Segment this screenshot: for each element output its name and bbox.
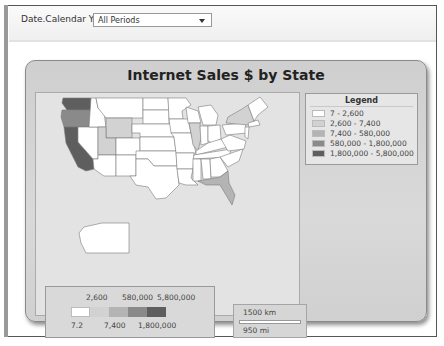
legend-item: 7 - 2,600 bbox=[306, 109, 417, 119]
filter-bar: Date.Calendar Year All Periods bbox=[9, 6, 436, 42]
legend-item: 2,600 - 7,400 bbox=[306, 119, 417, 129]
scale-top-label: 2,600 bbox=[86, 293, 107, 302]
distance-scale: 1500 km 950 mi bbox=[233, 304, 307, 338]
legend-label: 7,400 - 580,000 bbox=[330, 129, 390, 138]
legend-item: 7,400 - 580,000 bbox=[306, 129, 417, 139]
legend-item: 1,800,000 - 5,800,000 bbox=[306, 149, 417, 159]
state-washington bbox=[62, 98, 91, 110]
distance-km: 1500 km bbox=[243, 308, 276, 317]
dropdown-value: All Periods bbox=[98, 16, 140, 25]
scale-bar-line bbox=[239, 320, 301, 324]
map-panel: Internet Sales $ by State bbox=[25, 60, 427, 322]
us-map[interactable] bbox=[36, 93, 299, 315]
chevron-down-icon[interactable] bbox=[199, 19, 205, 23]
legend-label: 7 - 2,600 bbox=[330, 109, 364, 118]
calendar-year-dropdown[interactable]: All Periods bbox=[93, 13, 212, 27]
legend: Legend 7 - 2,600 2,600 - 7,400 7,400 - 5… bbox=[305, 93, 418, 165]
legend-swatch bbox=[312, 120, 325, 127]
color-scale: 2,600 580,000 5,800,000 7.2 7,400 1,800,… bbox=[45, 286, 215, 338]
scale-color-bar bbox=[71, 307, 166, 317]
legend-swatch bbox=[312, 130, 325, 137]
chart-title: Internet Sales $ by State bbox=[26, 67, 426, 83]
frame-left-border bbox=[4, 5, 8, 337]
state-oregon bbox=[61, 110, 91, 127]
legend-item: 580,000 - 1,800,000 bbox=[306, 139, 417, 149]
legend-label: 580,000 - 1,800,000 bbox=[330, 139, 407, 148]
scale-top-label: 5,800,000 bbox=[157, 293, 195, 302]
legend-label: 1,800,000 - 5,800,000 bbox=[330, 149, 414, 158]
distance-mi: 950 mi bbox=[243, 326, 269, 335]
scale-top-label: 580,000 bbox=[122, 293, 153, 302]
legend-title: Legend bbox=[310, 94, 413, 107]
legend-swatch bbox=[312, 110, 325, 117]
scale-bottom-label: 7,400 bbox=[104, 321, 125, 330]
legend-label: 2,600 - 7,400 bbox=[330, 119, 380, 128]
map-viewport[interactable]: 2,600 580,000 5,800,000 7.2 7,400 1,800,… bbox=[35, 92, 300, 316]
legend-swatch bbox=[312, 150, 325, 157]
scale-bottom-label: 7.2 bbox=[71, 321, 83, 330]
legend-swatch bbox=[312, 140, 325, 147]
scale-bottom-label: 1,800,000 bbox=[138, 321, 176, 330]
